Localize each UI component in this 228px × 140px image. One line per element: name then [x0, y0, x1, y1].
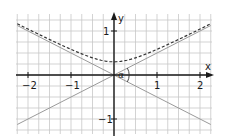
hyperbola-chart: −2 −1 1 2 1 −1 x y α — [0, 0, 228, 140]
y-axis-arrow-icon — [111, 12, 117, 20]
x-tick-label-pos2: 2 — [197, 80, 203, 91]
x-tick-label-pos1: 1 — [154, 80, 160, 91]
x-tick-label-neg2: −2 — [22, 80, 37, 91]
x-axis-arrow-icon — [206, 72, 214, 78]
y-tick-label-neg1: −1 — [98, 114, 113, 125]
y-tick-label-pos1: 1 — [103, 26, 109, 37]
y-axis-label: y — [118, 13, 124, 24]
angle-alpha-label: α — [118, 70, 124, 80]
x-axis-label: x — [205, 61, 211, 72]
x-tick-label-neg1: −1 — [65, 80, 80, 91]
